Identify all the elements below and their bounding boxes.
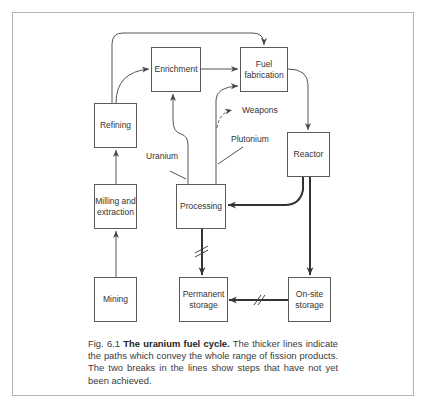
node-reactor: Reactor	[287, 132, 330, 177]
node-onsite-storage: On-site storage	[288, 277, 331, 322]
caption-title: The uranium fuel cycle.	[123, 338, 229, 349]
caption-prefix: Fig. 6.1	[88, 338, 120, 349]
label-uranium: Uranium	[146, 151, 178, 161]
figure-caption: Fig. 6.1 The uranium fuel cycle. The thi…	[88, 338, 338, 387]
label-weapons: Weapons	[242, 105, 278, 115]
node-permanent-storage: Permanent storage	[179, 277, 228, 322]
node-processing: Processing	[176, 184, 226, 229]
node-refining: Refining	[94, 103, 137, 148]
node-mining: Mining	[94, 277, 137, 322]
node-milling: Milling and extraction	[94, 184, 137, 229]
node-fuel-fabrication: Fuel fabrication	[240, 47, 288, 92]
node-enrichment: Enrichment	[151, 47, 201, 92]
label-plutonium: Plutonium	[231, 134, 269, 144]
